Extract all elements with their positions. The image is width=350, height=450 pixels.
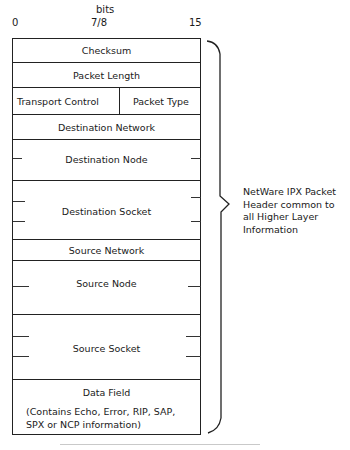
annotation-line: Header common to: [243, 199, 336, 212]
annotation-line: all Higher Layer: [243, 211, 336, 224]
cropped-caption: [60, 443, 260, 447]
annotation-line: Information: [243, 224, 336, 237]
brace-annotation: NetWare IPX Packet Header common to all …: [243, 186, 336, 236]
annotation-line: NetWare IPX Packet: [243, 186, 336, 199]
